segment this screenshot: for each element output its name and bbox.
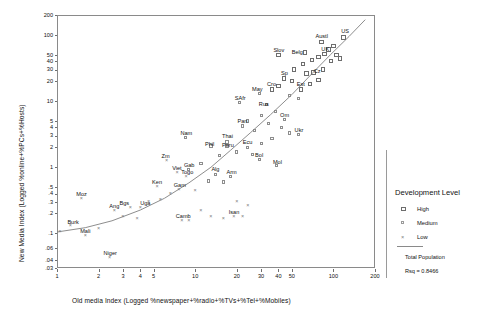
data-point [288, 94, 291, 97]
data-point-label: Gam [174, 182, 186, 188]
y-tick-label: .06 [27, 245, 53, 251]
legend-title: Development Level [395, 188, 460, 197]
data-point-label: Cro [267, 81, 276, 87]
y-tick-label: 50 [27, 52, 53, 58]
y-tick-label: .2 [27, 210, 53, 216]
data-point [276, 53, 280, 57]
data-point [214, 173, 217, 176]
data-point [218, 154, 221, 157]
y-tick-mark [55, 167, 58, 168]
legend-label-medium: Medium [417, 220, 438, 226]
y-tick-label: 200 [27, 12, 53, 18]
y-tick-label: 5 [27, 118, 53, 124]
y-tick-label: 10 [27, 98, 53, 104]
data-point: × [220, 216, 226, 222]
data-point [297, 133, 300, 136]
y-tick-label: 30 [27, 66, 53, 72]
data-point-label: Bol [255, 152, 263, 158]
data-point [238, 101, 241, 104]
data-point [222, 180, 225, 183]
x-tick-mark [333, 269, 334, 272]
y-tick-mark [55, 260, 58, 261]
data-point-label: Ken [152, 179, 162, 185]
y-tick-label: .3 [27, 199, 53, 205]
y-tick-mark [55, 55, 58, 56]
data-point: × [192, 188, 198, 194]
data-point-label: Pan [238, 118, 248, 124]
data-point [270, 137, 273, 140]
data-point [322, 52, 326, 56]
data-point-label: Sp [281, 70, 288, 76]
x-tick-label: 50 [280, 273, 304, 279]
data-point [267, 122, 270, 125]
data-point [316, 78, 320, 82]
y-tick-mark [55, 81, 58, 82]
data-point [341, 35, 345, 39]
data-point-label: UK [321, 46, 329, 52]
y-tick-label: 2 [27, 144, 53, 150]
data-point [260, 142, 263, 145]
y-tick-mark [55, 187, 58, 188]
data-point-label: US [341, 28, 349, 34]
y-tick-mark [55, 121, 58, 122]
y-tick-mark [55, 101, 58, 102]
data-point [338, 56, 342, 60]
data-point-label: Belg [292, 49, 303, 55]
data-point [331, 44, 335, 48]
plot-area [57, 15, 375, 268]
data-point [251, 153, 254, 156]
data-point-label: Est [297, 81, 305, 87]
data-point [184, 136, 187, 139]
x-tick-label: 2 [87, 273, 111, 279]
y-tick-mark [55, 136, 58, 137]
y-tick-label: 3 [27, 132, 53, 138]
y-tick-label: 4 [27, 124, 53, 130]
legend-rsq-label: Rsq = 0.8466 [405, 268, 438, 274]
data-point [304, 71, 308, 75]
y-tick-label: 20 [27, 78, 53, 84]
data-point [329, 59, 333, 63]
data-point [260, 114, 263, 117]
data-point-label: Phil [205, 141, 214, 147]
data-point [282, 76, 286, 80]
legend-divider [386, 150, 387, 278]
data-point: × [198, 208, 204, 214]
data-point-label: Om [280, 112, 289, 118]
data-point: × [57, 229, 63, 235]
data-point-label: Rus [259, 101, 269, 107]
x-tick-mark [99, 269, 100, 272]
legend-fit-label: Total Population [405, 254, 445, 260]
y-tick-mark [55, 213, 58, 214]
data-point [292, 67, 296, 71]
y-tick-mark [55, 194, 58, 195]
x-tick-mark [278, 269, 279, 272]
x-tick-mark [195, 269, 196, 272]
data-point-label: Isan [229, 209, 240, 215]
y-tick-mark [55, 61, 58, 62]
chart-root: Old media Index (Logged %newspaper+%radi… [0, 0, 495, 315]
y-tick-label: 100 [27, 32, 53, 38]
y-tick-label: .04 [27, 257, 53, 263]
data-point-label: Peru [222, 142, 234, 148]
x-tick-label: 5 [142, 273, 166, 279]
data-point-label: Bgs [119, 200, 129, 206]
y-tick-label: .03 [27, 265, 53, 271]
data-point: × [208, 214, 214, 220]
legend-marker-high [401, 207, 406, 212]
data-point-label: Burk [67, 219, 79, 225]
legend-label-high: High [417, 206, 429, 212]
x-tick-label: 1 [45, 273, 69, 279]
data-point-label: Arm [226, 169, 236, 175]
y-tick-mark [55, 202, 58, 203]
legend-marker-medium [401, 221, 404, 224]
data-point [258, 92, 261, 95]
data-point [299, 87, 303, 91]
data-point [199, 162, 202, 165]
data-point [303, 50, 307, 54]
data-point-label: Gab [184, 162, 195, 168]
data-point-label: Uga [140, 200, 150, 206]
data-point-label: Ecu [243, 139, 253, 145]
y-axis-title: New Media Index (Logged %online+%PCs+%Ho… [18, 104, 25, 262]
data-point-label: Niger [104, 250, 117, 256]
data-point: × [157, 197, 163, 203]
